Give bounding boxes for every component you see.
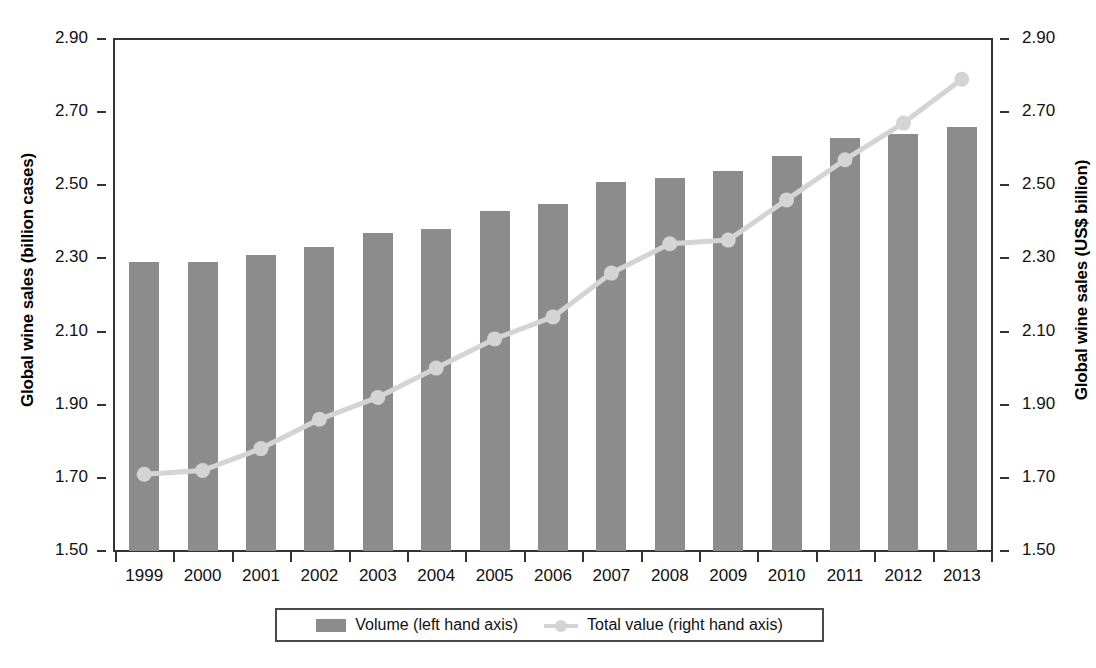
right-axis-tick-labels: 1.501.701.902.102.302.502.702.90 [1000,0,1070,668]
line-marker [721,233,736,248]
left-tick-mark [97,257,106,259]
x-tick-mark [349,551,351,562]
x-tick-mark [173,551,175,562]
left-tick-label: 1.70 [55,467,88,487]
left-tick-label: 2.90 [55,28,88,48]
line-marker [954,72,969,87]
x-axis-label: 2013 [932,566,992,586]
x-axis-tick-labels: 1999200020012002200320042005200620072008… [115,566,991,592]
line-marker [487,331,502,346]
x-tick-mark [407,551,409,562]
right-tick-label: 2.10 [1022,321,1055,341]
line-marker [429,361,444,376]
left-tick-label: 2.10 [55,321,88,341]
line-marker [195,463,210,478]
right-tick-mark [1000,331,1009,333]
x-axis-label: 2002 [289,566,349,586]
line-marker [604,266,619,281]
line-marker [312,412,327,427]
x-tick-mark [991,551,993,562]
left-tick-mark [97,184,106,186]
x-axis-label: 2010 [757,566,817,586]
line-marker [838,152,853,167]
x-axis-label: 2007 [581,566,641,586]
legend-entry-volume: Volume (left hand axis) [316,616,518,634]
left-tick-mark [97,111,106,113]
right-tick-label: 1.90 [1022,394,1055,414]
left-axis-tick-labels: 1.501.701.902.102.302.502.702.90 [40,0,106,668]
line-marker [370,390,385,405]
right-tick-mark [1000,38,1009,40]
x-tick-mark [699,551,701,562]
right-tick-mark [1000,477,1009,479]
x-tick-mark [933,551,935,562]
line-marker [779,192,794,207]
line-series-total-value [115,39,991,551]
x-tick-mark [465,551,467,562]
wine-sales-chart: Global wine sales (billion cases) Global… [0,0,1096,668]
x-tick-mark [816,551,818,562]
x-axis-tick-marks [115,551,991,563]
right-tick-mark [1000,550,1009,552]
x-tick-mark [874,551,876,562]
x-axis-label: 2011 [815,566,875,586]
x-tick-mark [232,551,234,562]
x-axis-label: 2005 [465,566,525,586]
right-tick-label: 1.50 [1022,540,1055,560]
x-tick-mark [641,551,643,562]
right-tick-label: 2.30 [1022,247,1055,267]
left-tick-label: 2.70 [55,101,88,121]
line-marker [896,116,911,131]
x-axis-label: 2000 [173,566,233,586]
line-marker [662,236,677,251]
line-path [144,79,962,474]
x-axis-label: 2003 [348,566,408,586]
right-tick-mark [1000,404,1009,406]
legend-entry-total-value: Total value (right hand axis) [544,616,783,634]
x-tick-mark [290,551,292,562]
right-tick-label: 2.90 [1022,28,1055,48]
right-tick-label: 1.70 [1022,467,1055,487]
x-axis-label: 2001 [231,566,291,586]
line-marker [137,467,152,482]
x-tick-mark [115,551,117,562]
line-marker [546,309,561,324]
bar-swatch-icon [316,619,346,632]
right-tick-label: 2.50 [1022,174,1055,194]
y-axis-title-right: Global wine sales (US$ billion) [1068,0,1096,560]
y-axis-title-left: Global wine sales (billion cases) [14,0,42,560]
x-axis-label: 2012 [873,566,933,586]
left-tick-mark [97,477,106,479]
left-tick-label: 1.50 [55,540,88,560]
x-tick-mark [582,551,584,562]
x-axis-label: 2004 [406,566,466,586]
legend-label-total-value: Total value (right hand axis) [587,616,783,634]
legend-label-volume: Volume (left hand axis) [355,616,518,634]
right-tick-mark [1000,111,1009,113]
left-tick-label: 1.90 [55,394,88,414]
line-marker [254,441,269,456]
right-tick-mark [1000,184,1009,186]
left-tick-mark [97,38,106,40]
x-tick-mark [524,551,526,562]
line-marker-swatch-icon [544,619,578,632]
left-tick-mark [97,331,106,333]
x-axis-label: 2008 [640,566,700,586]
left-tick-mark [97,550,106,552]
right-tick-mark [1000,257,1009,259]
x-tick-mark [757,551,759,562]
x-axis-label: 2009 [698,566,758,586]
right-tick-label: 2.70 [1022,101,1055,121]
x-axis-label: 1999 [114,566,174,586]
chart-legend: Volume (left hand axis) Total value (rig… [275,608,824,642]
left-tick-mark [97,404,106,406]
left-tick-label: 2.30 [55,247,88,267]
x-axis-label: 2006 [523,566,583,586]
left-tick-label: 2.50 [55,174,88,194]
